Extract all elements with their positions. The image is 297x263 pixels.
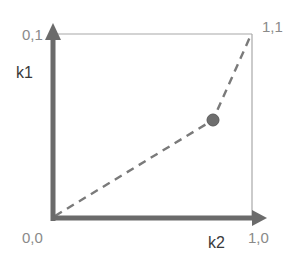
unit-square-diagram: 0,1 1,1 0,0 1,0 k1 k2 — [0, 0, 297, 263]
label-origin: 0,0 — [22, 229, 43, 246]
dashed-path — [55, 37, 250, 216]
label-top-right: 1,1 — [262, 18, 283, 35]
label-top-left: 0,1 — [22, 26, 43, 43]
label-bottom-right: 1,0 — [248, 229, 269, 246]
k2-axis-label: k2 — [208, 234, 225, 251]
k2-axis-arrowhead-icon — [252, 210, 267, 226]
k1-axis-label: k1 — [16, 64, 33, 81]
point-marker — [207, 114, 219, 126]
k1-axis-arrowhead-icon — [45, 23, 61, 40]
